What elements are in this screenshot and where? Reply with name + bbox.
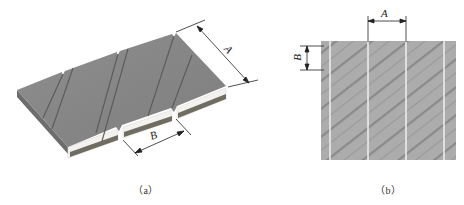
caption-b: （b） — [375, 182, 402, 197]
panel-b: A B （b） — [280, 0, 464, 205]
caption-a: （a） — [133, 182, 159, 197]
dimension-b — [300, 46, 324, 70]
dimension-label-a: A — [381, 8, 388, 19]
dimension-label-b: B — [292, 54, 303, 61]
panel-a: A B （a） — [0, 0, 280, 205]
strip-isometric-drawing — [0, 0, 280, 205]
dimension-a — [368, 16, 406, 42]
strip-top-view-drawing — [280, 0, 464, 205]
textured-surface — [321, 41, 456, 160]
